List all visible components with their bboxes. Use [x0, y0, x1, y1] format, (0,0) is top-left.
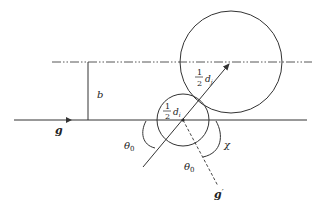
- svg-text:1: 1: [165, 102, 170, 111]
- svg-text:2: 2: [165, 112, 170, 121]
- large-circle: [180, 11, 282, 113]
- label-g: g: [55, 124, 63, 137]
- svg-text:di: di: [173, 107, 181, 118]
- incoming-line: [14, 117, 307, 123]
- angle-theta0-left-arc: [143, 121, 155, 148]
- svg-text:2: 2: [197, 79, 202, 88]
- label-g-prime: g′: [214, 187, 224, 201]
- label-b: b: [97, 89, 103, 100]
- svg-text:1: 1: [197, 68, 202, 77]
- label-theta0-left: θ0: [124, 140, 135, 153]
- label-half-dj: 1 2 dj: [195, 68, 213, 88]
- center-line: [143, 64, 229, 167]
- label-theta0-right: θ0: [184, 161, 195, 174]
- label-half-di: 1 2 di: [163, 102, 181, 121]
- angle-chi-arc: [203, 121, 220, 157]
- collision-diagram: g b θ0 θ0 χ g′ 1 2 di 1 2 dj: [0, 0, 316, 209]
- svg-text:dj: dj: [205, 74, 213, 86]
- arrow-icon: [66, 117, 72, 123]
- label-chi: χ: [223, 139, 231, 150]
